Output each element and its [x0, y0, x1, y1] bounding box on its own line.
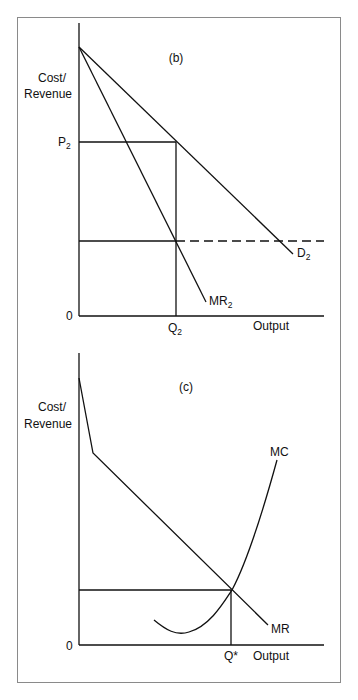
panel-c — [79, 353, 324, 645]
mr2-curve — [79, 47, 206, 302]
figure-border — [18, 18, 341, 683]
panel-b — [79, 23, 324, 316]
mr2-label: MR2 — [209, 294, 233, 310]
y-axis-label-b: Cost/ — [38, 71, 67, 85]
qstar-label: Q* — [224, 649, 238, 663]
origin-label-c: 0 — [66, 639, 73, 653]
x-axis-label-c: Output — [253, 649, 290, 663]
y-axis-label-b-2: Revenue — [24, 87, 72, 101]
p2-label: P2 — [58, 135, 71, 151]
panel-b-title: (b) — [169, 51, 184, 65]
d2-label: D2 — [297, 246, 311, 262]
panel-c-title: (c) — [179, 380, 193, 394]
demand-curve-d2 — [79, 47, 293, 254]
origin-label-b: 0 — [66, 309, 73, 323]
mr-label: MR — [271, 622, 290, 636]
mc-label: MC — [270, 445, 289, 459]
mr-curve-kinked — [79, 378, 268, 625]
y-axis-label-c: Cost/ — [38, 400, 67, 414]
x-axis-label-b: Output — [253, 319, 290, 333]
y-axis-label-c-2: Revenue — [24, 417, 72, 431]
mc-curve — [154, 460, 277, 633]
q2-label: Q2 — [168, 321, 182, 337]
figure: (b) Cost/ Revenue P2 0 Q2 Output D2 MR2 … — [0, 0, 358, 700]
